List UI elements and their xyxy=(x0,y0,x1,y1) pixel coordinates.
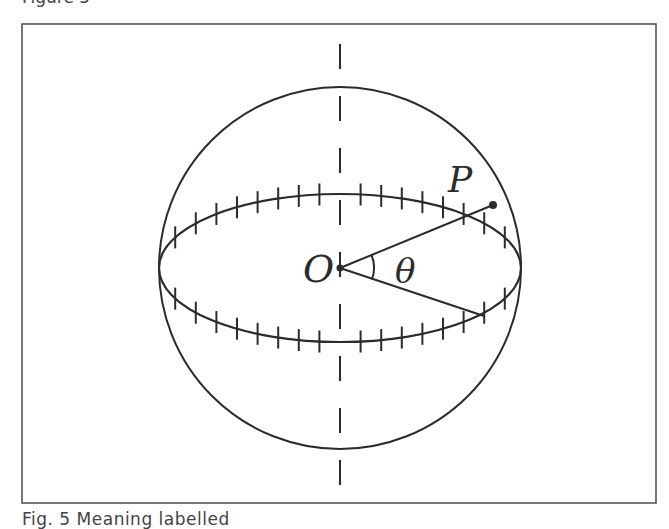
bottom-caption: Fig. 5 Meaning labelled xyxy=(22,509,230,529)
label-point-p: P xyxy=(447,159,473,200)
angle-arc xyxy=(372,255,375,280)
label-origin: O xyxy=(303,247,334,291)
origin-point xyxy=(337,265,344,272)
label-angle-theta: θ xyxy=(395,251,415,291)
point-p xyxy=(489,201,497,209)
radius-line-to-p xyxy=(340,205,493,268)
